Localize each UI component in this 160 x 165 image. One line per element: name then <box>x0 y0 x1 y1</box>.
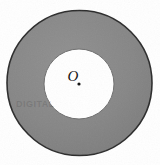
scan-grain-overlay <box>0 0 160 165</box>
annulus-diagram: O DIGITAL <box>0 0 160 165</box>
figure-canvas: O <box>0 0 160 165</box>
